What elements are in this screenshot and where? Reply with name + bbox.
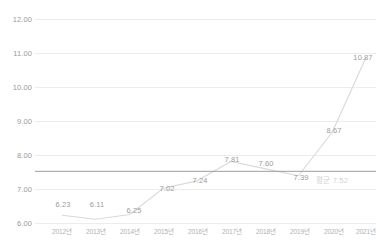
x-tick-label: 2020년 — [324, 226, 344, 236]
x-tick-label: 2018년 — [256, 226, 276, 236]
data-label: 6.11 — [90, 200, 104, 209]
line-chart: 12.00 11.00 10.00 9.00 8.00 7.00 6.00 평균… — [0, 0, 376, 240]
x-tick-label: 2012년 — [52, 226, 72, 236]
x-tick-label: 2013년 — [86, 226, 106, 236]
data-label: 7.81 — [225, 155, 240, 164]
data-label: 6.23 — [56, 200, 71, 209]
data-label: 7.24 — [193, 176, 208, 185]
data-series-line — [62, 57, 366, 219]
data-label: 7.60 — [259, 159, 274, 168]
x-tick-label: 2016년 — [188, 226, 208, 236]
data-label: 6.25 — [127, 206, 142, 215]
x-tick-label: 2019년 — [290, 226, 310, 236]
x-tick-label: 2017년 — [222, 226, 242, 236]
average-line-label: 평균 7.52 — [316, 174, 348, 185]
data-label: 7.02 — [160, 184, 175, 193]
data-label: 10.87 — [353, 53, 372, 62]
x-tick-label: 2014년 — [120, 226, 140, 236]
x-tick-label: 2015년 — [154, 226, 174, 236]
data-label: 7.39 — [294, 173, 309, 182]
data-label: 8.67 — [327, 126, 342, 135]
x-tick-label: 2021년 — [356, 226, 376, 236]
